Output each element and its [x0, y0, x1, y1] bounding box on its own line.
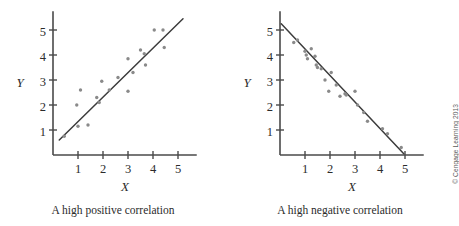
y-tick-label-3: 3: [30, 76, 46, 89]
data-point: [316, 66, 319, 69]
data-point: [153, 28, 156, 31]
y-axis-title: Y: [237, 76, 257, 89]
best-fit-line: [281, 24, 404, 154]
data-point: [139, 48, 142, 51]
x-tick-label-5: 5: [170, 163, 186, 176]
panel-caption: A high positive correlation: [0, 205, 226, 217]
y-tick-label-1: 1: [30, 126, 46, 139]
data-point: [75, 103, 78, 106]
y-tick-label-2: 2: [30, 101, 46, 114]
data-point: [126, 57, 129, 60]
data-point: [131, 71, 134, 74]
panel-negative-correlation: 1 2 3 4 5 1 2 3 4 5 X Y A high negative …: [227, 0, 453, 226]
y-tick-label-4: 4: [30, 51, 46, 64]
y-tick-label-5: 5: [257, 26, 273, 39]
data-point: [310, 47, 313, 50]
copyright-credit: © Cengage Learning 2013: [452, 104, 459, 184]
data-point: [143, 52, 146, 55]
data-point: [144, 63, 147, 66]
x-tick-label-2: 2: [322, 163, 338, 176]
data-point: [366, 120, 369, 123]
data-point: [323, 78, 326, 81]
data-point: [306, 57, 309, 60]
data-point: [400, 146, 403, 149]
y-tick-label-2: 2: [257, 101, 273, 114]
y-tick-label-5: 5: [30, 26, 46, 39]
data-point: [353, 90, 356, 93]
data-point: [335, 83, 338, 86]
data-point: [381, 127, 384, 130]
x-tick-label-5: 5: [397, 163, 413, 176]
data-point: [86, 123, 89, 126]
data-point: [163, 46, 166, 49]
data-point: [79, 88, 82, 91]
data-point: [320, 67, 323, 70]
x-tick-label-1: 1: [70, 163, 86, 176]
data-point: [327, 90, 330, 93]
data-point: [161, 28, 164, 31]
y-tick-label-3: 3: [257, 76, 273, 89]
data-point: [63, 135, 66, 138]
panel-caption: A high negative correlation: [227, 205, 453, 217]
y-tick-label-1: 1: [257, 126, 273, 139]
y-axis-title: Y: [10, 76, 30, 89]
data-point: [338, 95, 341, 98]
data-point: [116, 76, 119, 79]
data-point: [330, 71, 333, 74]
data-point: [95, 96, 98, 99]
data-point: [100, 80, 103, 83]
panel-positive-correlation: 1 2 3 4 5 1 2 3 4 5 X Y A high positive …: [0, 0, 226, 226]
x-tick-label-4: 4: [372, 163, 388, 176]
data-point: [356, 103, 359, 106]
data-point: [345, 93, 348, 96]
data-point: [98, 101, 101, 104]
data-point: [126, 90, 129, 93]
data-point: [305, 53, 308, 56]
best-fit-line: [59, 19, 183, 140]
data-point: [292, 41, 295, 44]
data-point: [303, 50, 306, 53]
data-point: [313, 55, 316, 58]
y-tick-label-4: 4: [257, 51, 273, 64]
x-tick-label-2: 2: [95, 163, 111, 176]
data-point: [76, 125, 79, 128]
data-point: [386, 132, 389, 135]
x-tick-label-3: 3: [120, 163, 136, 176]
x-tick-label-1: 1: [297, 163, 313, 176]
x-tick-label-4: 4: [145, 163, 161, 176]
data-point: [108, 88, 111, 91]
x-tick-label-3: 3: [347, 163, 363, 176]
data-point: [362, 111, 365, 114]
x-axis-title: X: [115, 180, 135, 193]
data-point: [296, 38, 299, 41]
x-axis-title: X: [342, 180, 362, 193]
